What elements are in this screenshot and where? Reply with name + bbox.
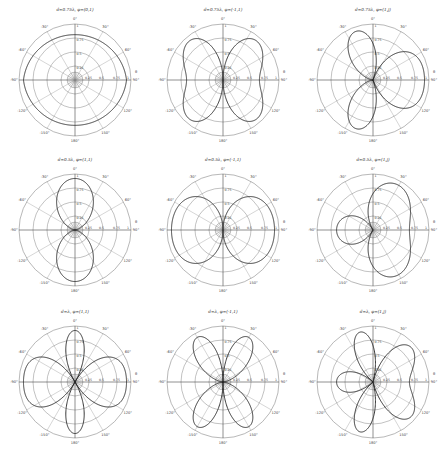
angle-tick-label: -30° <box>189 327 197 331</box>
angle-tick-label: 150° <box>399 281 408 285</box>
radial-tick-label: 0.75 <box>261 378 268 382</box>
angle-tick-label: 180° <box>369 139 378 143</box>
angle-tick-label: -90° <box>308 228 316 232</box>
polar-plot-2: d=0.75λ, φ=(-1,1)0°30°60°90°120°150°180°… <box>148 0 298 150</box>
grid-spoke <box>373 382 401 430</box>
angle-tick-label: -30° <box>41 25 49 29</box>
radial-tick-label: 0.75 <box>77 340 84 344</box>
radial-tick-label: 0.5 <box>77 354 82 358</box>
grid-spoke <box>75 80 103 128</box>
radial-tick-label: 0.5 <box>225 202 230 206</box>
radial-tick-label: 1 <box>275 76 277 80</box>
grid-spoke <box>223 382 271 410</box>
radial-tick-label: 0.5 <box>247 226 252 230</box>
radial-tick-label: 0.25 <box>85 378 92 382</box>
radial-tick-label: 0.5 <box>77 202 82 206</box>
grid-spoke <box>27 354 75 382</box>
angle-tick-label: 30° <box>102 175 109 179</box>
radial-tick-label: 1 <box>425 76 427 80</box>
radial-tick-label: 1 <box>275 378 277 382</box>
grid-spoke <box>75 80 123 108</box>
angle-tick-label: 60° <box>423 350 430 354</box>
radial-tick-label: 0.5 <box>397 76 402 80</box>
angle-tick-label: -30° <box>339 327 347 331</box>
radial-tick-label: 0.75 <box>77 188 84 192</box>
grid-spoke <box>75 382 103 430</box>
angle-tick-label: 60° <box>125 198 132 202</box>
grid-spoke <box>325 354 373 382</box>
plot-title: d=0.5λ, φ=(1,1) <box>58 157 93 162</box>
angle-tick-label: 60° <box>273 48 280 52</box>
grid-spoke <box>195 230 223 278</box>
grid-spoke <box>47 32 75 80</box>
radial-tick-label: 0.25 <box>225 66 232 70</box>
angle-tick-label: -150° <box>40 433 50 437</box>
radial-tick-label: 0.75 <box>113 378 120 382</box>
plot-title: d=0.5λ, φ=(1,j) <box>356 157 390 162</box>
angle-tick-label: -120° <box>165 259 175 263</box>
angle-tick-label: -30° <box>339 25 347 29</box>
angle-tick-label: 150° <box>101 131 110 135</box>
angle-tick-label: -60° <box>316 48 324 52</box>
grid-spoke <box>27 202 75 230</box>
grid-spoke <box>175 52 223 80</box>
grid-spoke <box>175 80 223 108</box>
angle-tick-label: 120° <box>421 109 430 113</box>
polar-plot-5: d=0.5λ, φ=(-1,1)0°30°60°90°120°150°180°-… <box>148 150 298 300</box>
angle-tick-label: 180° <box>71 139 80 143</box>
grid-spoke <box>27 230 75 258</box>
radial-tick-label: 1 <box>77 326 79 330</box>
polar-chart-svg: d=0.5λ, φ=(1,j)0°30°60°90°120°150°180°-1… <box>298 150 448 300</box>
angle-tick-label: 60° <box>423 48 430 52</box>
radial-tick-label: 0.25 <box>383 378 390 382</box>
grid-spoke <box>47 182 75 230</box>
angle-tick-label: 30° <box>400 25 407 29</box>
angle-tick-label: 120° <box>271 109 280 113</box>
angle-tick-label: 30° <box>250 175 257 179</box>
angle-tick-label: -150° <box>188 281 198 285</box>
angle-tick-label: -60° <box>316 350 324 354</box>
angle-tick-label: 120° <box>123 411 132 415</box>
polar-plot-3: d=0.75λ, φ=(1,j)0°30°60°90°120°150°180°-… <box>298 0 448 150</box>
radial-tick-label: 0.5 <box>375 202 380 206</box>
radial-tick-label: 1 <box>225 174 227 178</box>
theta-axis-symbol: θ <box>283 372 285 376</box>
angle-tick-label: -60° <box>166 350 174 354</box>
radial-tick-label: 0.25 <box>383 76 390 80</box>
polar-chart-svg: d=0.5λ, φ=(-1,1)0°30°60°90°120°150°180°-… <box>148 150 298 300</box>
radial-tick-label: 0.25 <box>77 66 84 70</box>
grid-spoke <box>223 80 271 108</box>
grid-spoke <box>47 382 75 430</box>
polar-chart-svg: d=0.5λ, φ=(1,1)0°30°60°90°120°150°180°-1… <box>0 150 150 300</box>
radial-tick-label: 0.75 <box>77 38 84 42</box>
grid-spoke <box>325 52 373 80</box>
grid-spoke <box>325 80 373 108</box>
radial-tick-label: 0.25 <box>77 216 84 220</box>
theta-axis-symbol: θ <box>433 372 435 376</box>
angle-tick-label: -120° <box>315 259 325 263</box>
radial-tick-label: 0.5 <box>99 226 104 230</box>
radial-tick-label: 0.5 <box>247 378 252 382</box>
radial-tick-label: 0.5 <box>397 226 402 230</box>
grid-spoke <box>27 382 75 410</box>
radial-tick-label: 0.75 <box>225 188 232 192</box>
theta-axis-symbol: θ <box>433 70 435 74</box>
polar-plot-8: d=λ, φ=(-1,1)0°30°60°90°120°150°180°-150… <box>148 302 298 452</box>
angle-tick-label: 30° <box>400 327 407 331</box>
angle-tick-label: -90° <box>158 380 166 384</box>
grid-spoke <box>75 382 123 410</box>
radial-tick-label: 1 <box>375 24 377 28</box>
grid-spoke <box>373 230 421 258</box>
grid-spoke <box>373 382 421 410</box>
polar-chart-svg: d=λ, φ=(1,1)0°30°60°90°120°150°180°-150°… <box>0 302 150 452</box>
grid-spoke <box>175 382 223 410</box>
angle-tick-label: 0° <box>221 167 225 171</box>
angle-tick-label: 0° <box>73 167 77 171</box>
grid-spoke <box>175 354 223 382</box>
angle-tick-label: 180° <box>219 139 228 143</box>
angle-tick-label: -120° <box>165 109 175 113</box>
theta-axis-symbol: θ <box>135 372 137 376</box>
grid-spoke <box>75 230 123 258</box>
angle-tick-label: -150° <box>338 433 348 437</box>
angle-tick-label: -60° <box>316 198 324 202</box>
